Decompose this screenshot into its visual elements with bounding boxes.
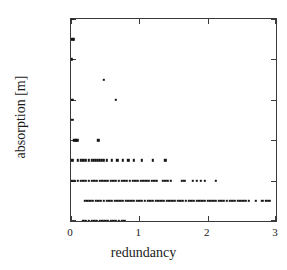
- data-point: [261, 200, 263, 202]
- data-point: [71, 18, 73, 20]
- data-point: [70, 58, 72, 60]
- x-axis-title: redundancy: [0, 245, 287, 261]
- data-point: [116, 159, 118, 161]
- x-axis-tick-label: 3: [272, 226, 278, 238]
- data-point: [122, 159, 124, 161]
- data-point: [196, 179, 198, 181]
- data-point: [141, 159, 143, 161]
- data-point: [115, 99, 117, 101]
- data-point: [191, 179, 193, 181]
- data-point: [127, 159, 129, 161]
- x-axis-tick-label: 2: [204, 226, 210, 238]
- data-point: [72, 99, 74, 101]
- data-point: [156, 179, 158, 181]
- data-point: [76, 139, 78, 141]
- data-point: [71, 159, 73, 161]
- data-point: [105, 159, 107, 161]
- data-point: [103, 78, 105, 80]
- data-point: [268, 200, 270, 202]
- data-point: [254, 200, 256, 202]
- data-point: [97, 139, 99, 141]
- data-point: [152, 159, 154, 161]
- data-point: [73, 38, 75, 40]
- x-axis-tick-labels: 0123: [70, 226, 277, 242]
- data-point: [111, 159, 113, 161]
- data-point: [204, 179, 206, 181]
- data-point: [183, 179, 185, 181]
- data-point: [215, 179, 217, 181]
- plot-area: [70, 18, 277, 222]
- data-points-layer: [71, 19, 276, 221]
- data-point: [123, 220, 125, 222]
- data-point: [170, 179, 172, 181]
- data-point: [200, 179, 202, 181]
- data-point: [247, 200, 249, 202]
- data-point: [164, 159, 166, 161]
- data-point: [133, 159, 135, 161]
- data-point: [71, 119, 73, 121]
- x-axis-tick-label: 0: [67, 226, 73, 238]
- x-axis-tick-label: 1: [136, 226, 142, 238]
- scatter-chart-figure: absorption [m] 0.000.020.040.060.080.10 …: [0, 0, 287, 270]
